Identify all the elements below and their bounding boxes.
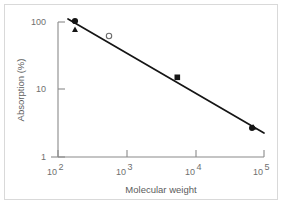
data-point-circle-filled-1 bbox=[72, 18, 78, 24]
x-tick-exponent-1e3: 3 bbox=[127, 162, 132, 172]
y-tick-label-100: 100 bbox=[31, 17, 46, 27]
x-tick-exponent-1e5: 5 bbox=[264, 162, 269, 172]
x-tick-label-1e3: 10 3 bbox=[116, 162, 133, 177]
data-point-square-filled-1 bbox=[175, 75, 181, 81]
y-tick-label-10: 10 bbox=[36, 84, 46, 94]
x-tick-exponent-1e2: 2 bbox=[58, 162, 63, 172]
data-point-triangle-filled-1 bbox=[72, 27, 78, 33]
x-axis-title: Molecular weight bbox=[125, 184, 197, 195]
x-tick-exponent-1e4: 4 bbox=[196, 162, 201, 172]
x-tick-mantissa-1e4: 10 bbox=[185, 167, 195, 177]
x-tick-label-1e2: 10 2 bbox=[47, 162, 64, 177]
y-axis-title: Absorption (%) bbox=[15, 59, 26, 122]
x-tick-mantissa-1e5: 10 bbox=[253, 167, 263, 177]
y-axis bbox=[51, 22, 65, 157]
x-tick-mantissa-1e3: 10 bbox=[116, 167, 126, 177]
y-tick-label-1: 1 bbox=[41, 152, 46, 162]
scatter-plot: 100 10 1 10 2 10 3 10 4 10 5 Molecular w… bbox=[0, 0, 284, 206]
regression-line bbox=[68, 19, 264, 133]
x-axis bbox=[58, 150, 264, 157]
x-tick-mantissa-1e2: 10 bbox=[47, 167, 57, 177]
x-tick-label-1e5: 10 5 bbox=[253, 162, 270, 177]
figure-container: 100 10 1 10 2 10 3 10 4 10 5 Molecular w… bbox=[0, 0, 284, 206]
data-point-circle-open-1 bbox=[106, 33, 111, 38]
x-tick-label-1e4: 10 4 bbox=[185, 162, 202, 177]
